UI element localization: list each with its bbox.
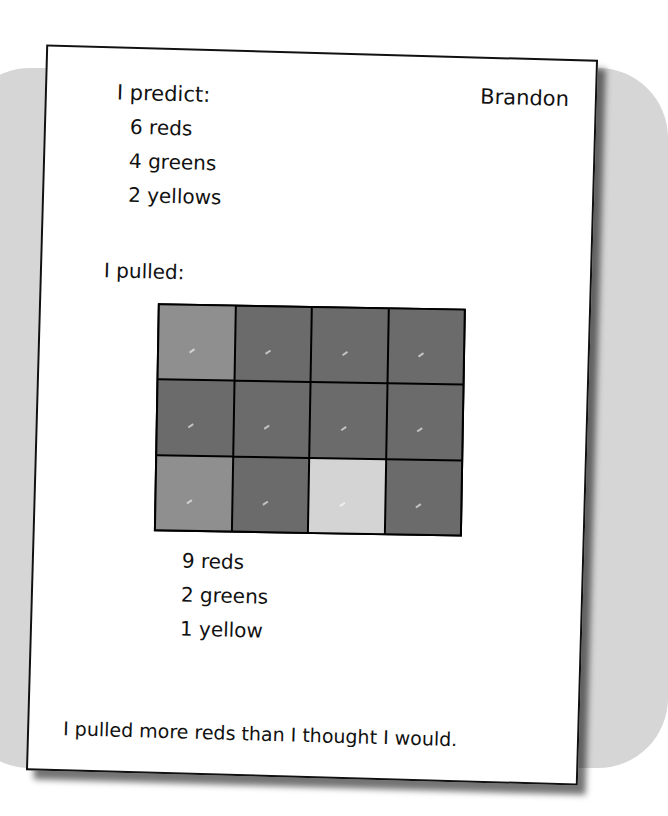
tile-red [385, 460, 461, 535]
result-item: 9 reds [182, 550, 245, 572]
prediction-item: 2 yellows [128, 185, 222, 208]
tile-red [232, 457, 308, 532]
prediction-item: 4 greens [129, 151, 217, 173]
tile-red [235, 307, 311, 382]
tile-red [387, 385, 463, 460]
prediction-heading: I predict: [117, 82, 211, 106]
tile-red [157, 381, 233, 456]
tile-green [156, 456, 232, 531]
tile-grid [154, 303, 466, 536]
tile-red [388, 309, 464, 384]
student-name: Brandon [480, 87, 569, 110]
result-item: 2 greens [181, 584, 269, 606]
tile-yellow [309, 459, 385, 534]
tile-red [312, 308, 388, 383]
tile-red [310, 383, 386, 458]
prediction-item: 6 reds [130, 117, 193, 139]
conclusion-text: I pulled more reds than I thought I woul… [63, 719, 458, 749]
tile-green [159, 305, 235, 380]
result-item: 1 yellow [180, 618, 263, 640]
worksheet-paper: Brandon I predict: 6 reds 4 greens 2 yel… [26, 44, 598, 785]
tile-red [234, 382, 310, 457]
pulled-heading: I pulled: [104, 260, 185, 282]
